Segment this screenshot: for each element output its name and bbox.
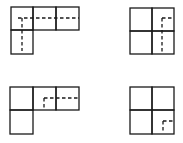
grid-square [10,87,33,110]
diagram-canvas [0,0,183,143]
panel-top-right [130,8,174,54]
grid-square [130,87,152,110]
grid-square [130,31,152,54]
grid-square [130,8,152,31]
grid-square [152,87,174,110]
panel-bottom-right [130,87,174,134]
panel-top-left [11,7,79,54]
grid-square [152,31,174,54]
grid-square [130,110,152,134]
panel-bottom-left [10,87,79,134]
grid-square [10,110,33,134]
grid-square [152,8,174,31]
